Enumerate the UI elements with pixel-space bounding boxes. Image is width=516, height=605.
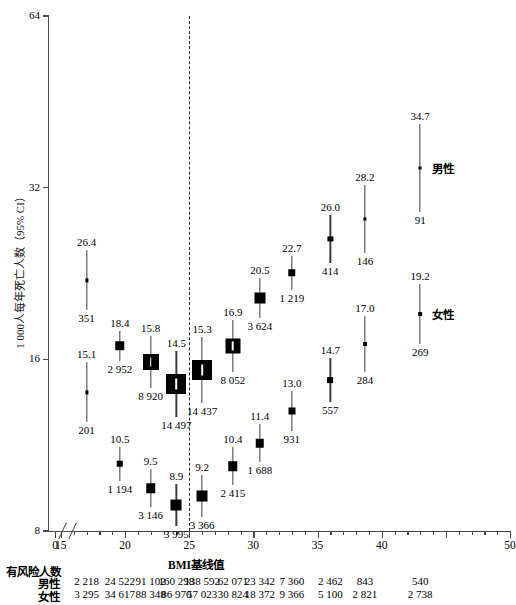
x-tick-minor-36	[330, 531, 331, 535]
point-count-label: 2 415	[220, 487, 245, 499]
x-tick-35	[318, 531, 319, 538]
x-tick-minor-16	[74, 531, 75, 535]
at-risk-row-label-female: 女性	[38, 588, 60, 604]
chart-canvas: 1 000人每年死亡人数（95% CI） 8163264 01520253035…	[0, 0, 516, 605]
point-count-label: 351	[78, 312, 95, 324]
data-point-marker[interactable]	[363, 342, 367, 346]
point-value-label: 22.7	[282, 242, 301, 254]
y-tick-label-16: 16	[8, 352, 40, 364]
data-point-marker[interactable]	[197, 491, 208, 502]
at-risk-cell: 138 592	[184, 575, 220, 587]
data-point-marker[interactable]	[225, 338, 240, 353]
data-point-marker[interactable]	[85, 391, 88, 394]
x-tick-minor-29	[241, 531, 242, 535]
point-count-label: 557	[322, 404, 339, 416]
point-value-label: 9.5	[144, 455, 158, 467]
at-risk-cell: 34 617	[105, 588, 135, 600]
point-count-label: 2 952	[107, 363, 132, 375]
reference-line-bmi-25	[189, 16, 190, 531]
x-tick-minor-32	[279, 531, 280, 535]
point-count-label: 8 920	[138, 390, 163, 402]
x-tick-minor-37	[343, 531, 344, 535]
x-tick-minor-33	[292, 531, 293, 535]
point-count-label: 3 624	[247, 320, 272, 332]
point-count-label: 1 219	[279, 292, 304, 304]
y-tick-32	[43, 187, 49, 188]
point-count-label: 201	[78, 424, 95, 436]
x-tick-label-15: 15	[55, 539, 67, 551]
point-count-label: 1 194	[107, 483, 132, 495]
x-tick-minor-26	[202, 531, 203, 535]
x-tick-minor-42	[407, 531, 408, 535]
x-tick-50	[510, 531, 511, 538]
point-count-label: 931	[284, 433, 301, 445]
x-tick-label-35: 35	[312, 539, 324, 551]
point-value-label: 17.0	[355, 302, 374, 314]
data-point-marker[interactable]	[256, 439, 265, 448]
data-point-marker[interactable]	[327, 377, 333, 383]
marker-notch	[176, 378, 178, 389]
point-count-label: 1 688	[247, 464, 272, 476]
y-tick-8	[43, 530, 49, 531]
data-point-marker[interactable]	[85, 279, 88, 282]
data-point-marker[interactable]	[418, 312, 422, 316]
data-point-marker[interactable]	[254, 292, 265, 303]
point-value-label: 15.3	[192, 323, 211, 335]
at-risk-cell: 7 360	[279, 575, 304, 587]
data-point-marker[interactable]	[166, 374, 186, 394]
x-tick-minor-34	[305, 531, 306, 535]
series-label-female: 女性	[432, 306, 454, 322]
data-point-marker[interactable]	[419, 166, 422, 169]
data-point-marker[interactable]	[192, 360, 212, 380]
y-tick-16	[43, 359, 49, 360]
at-risk-cell: 2 218	[74, 575, 99, 587]
at-risk-cell: 57 023	[187, 588, 217, 600]
x-tick-minor-31	[266, 531, 267, 535]
at-risk-cell: 2 738	[408, 588, 433, 600]
data-point-marker[interactable]	[143, 354, 159, 370]
x-tick-minor-43	[420, 531, 421, 535]
point-count-label: 269	[412, 346, 429, 358]
point-value-label: 9.2	[195, 461, 209, 473]
at-risk-cell: 23 342	[245, 575, 275, 587]
at-risk-cell: 5 100	[318, 588, 343, 600]
data-point-marker[interactable]	[288, 269, 296, 277]
point-value-label: 19.2	[411, 270, 430, 282]
point-count-label: 14 497	[161, 419, 191, 431]
at-risk-cell: 30 824	[218, 588, 248, 600]
x-tick-minor-49	[497, 531, 498, 535]
point-value-label: 16.9	[223, 306, 242, 318]
at-risk-cell: 3 295	[74, 588, 99, 600]
x-tick-minor-17	[87, 531, 88, 535]
x-tick-minor-39	[369, 531, 370, 535]
point-value-label: 15.8	[141, 322, 160, 334]
point-value-label: 26.4	[77, 236, 96, 248]
data-point-marker[interactable]	[117, 460, 124, 467]
at-risk-cell: 18 372	[245, 588, 275, 600]
data-point-marker[interactable]	[171, 499, 182, 510]
point-count-label: 8 052	[220, 374, 245, 386]
data-point-marker[interactable]	[228, 461, 238, 471]
y-tick-label-64: 64	[8, 9, 40, 21]
data-point-marker[interactable]	[146, 484, 156, 494]
data-point-marker[interactable]	[328, 236, 333, 241]
marker-notch	[232, 342, 234, 350]
at-risk-cell: 540	[412, 575, 429, 587]
data-point-marker[interactable]	[288, 407, 295, 414]
x-tick-minor-18	[99, 531, 100, 535]
point-count-label: 284	[357, 374, 374, 386]
x-tick-minor-21	[138, 531, 139, 535]
point-count-label: 146	[357, 255, 374, 267]
point-value-label: 18.4	[110, 317, 129, 329]
at-risk-cell: 24 522	[105, 575, 135, 587]
at-risk-cell: 2 821	[353, 588, 378, 600]
x-tick-20	[125, 531, 126, 538]
x-tick-label-40: 40	[376, 539, 388, 551]
data-point-marker[interactable]	[115, 341, 125, 351]
x-tick-label-50: 50	[504, 539, 516, 551]
point-value-label: 10.5	[110, 433, 129, 445]
point-count-label: 3 146	[138, 509, 163, 521]
point-value-label: 8.9	[169, 470, 183, 482]
data-point-marker[interactable]	[363, 217, 366, 220]
x-tick-minor-47	[472, 531, 473, 535]
